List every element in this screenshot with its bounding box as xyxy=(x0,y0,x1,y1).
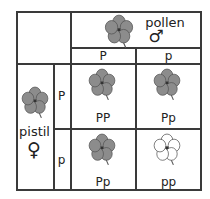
cell-heterozygous-flower-icon xyxy=(150,68,184,102)
cell-genotype-2: Pp xyxy=(136,112,201,124)
row-allele-2: p xyxy=(53,154,70,166)
grid-right xyxy=(200,11,202,191)
male-symbol: ♂ xyxy=(144,28,168,45)
cell-pp-dominant-flower-icon xyxy=(85,68,119,102)
pistil-flower-icon xyxy=(18,86,52,120)
grid-side-divider xyxy=(53,63,55,190)
cell-recessive-white-flower-icon xyxy=(150,133,184,167)
pistil-label: pistil xyxy=(16,126,53,138)
row-allele-1: P xyxy=(53,90,70,102)
cell-genotype-3: Pp xyxy=(70,176,136,188)
female-symbol: ♀ xyxy=(20,140,48,159)
grid-corner-divider xyxy=(70,11,72,190)
cell-heterozygous-flower-icon xyxy=(85,133,119,167)
grid-top xyxy=(16,11,201,13)
column-allele-1: P xyxy=(70,50,136,62)
grid-allele-row-divider xyxy=(16,63,201,65)
grid-middle-row-divider xyxy=(53,128,201,130)
grid-bottom xyxy=(16,189,201,191)
cell-genotype-1: PP xyxy=(70,112,136,124)
column-allele-2: p xyxy=(136,50,201,62)
cell-genotype-4: pp xyxy=(136,176,201,188)
pollen-flower-icon xyxy=(101,14,137,50)
